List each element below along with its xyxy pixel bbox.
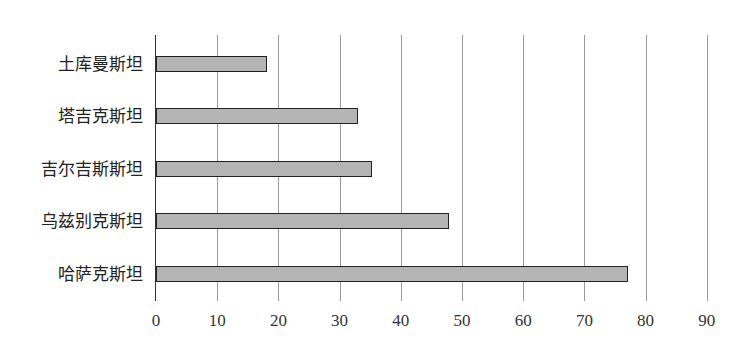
x-tick-label: 20 <box>258 311 298 331</box>
x-tick-label: 70 <box>564 311 604 331</box>
bar <box>156 56 267 72</box>
horizontal-bar-chart: 0102030405060708090 土库曼斯坦塔吉克斯坦吉尔吉斯斯坦乌兹别克… <box>0 0 743 357</box>
gridline <box>462 35 463 301</box>
bar <box>156 213 449 229</box>
category-label: 塔吉克斯坦 <box>0 106 143 126</box>
category-label: 乌兹别克斯坦 <box>0 211 143 231</box>
x-tick-label: 10 <box>197 311 237 331</box>
bar <box>156 161 372 177</box>
x-tick-label: 60 <box>503 311 543 331</box>
bar <box>156 108 358 124</box>
x-tick-label: 90 <box>687 311 727 331</box>
gridline <box>584 35 585 301</box>
x-tick-label: 50 <box>442 311 482 331</box>
category-label: 吉尔吉斯斯坦 <box>0 159 143 179</box>
x-tick-label: 0 <box>136 311 176 331</box>
gridline <box>401 35 402 301</box>
x-tick-label: 80 <box>626 311 666 331</box>
gridline <box>707 35 708 301</box>
bar <box>156 266 628 282</box>
category-label: 哈萨克斯坦 <box>0 264 143 284</box>
gridline <box>523 35 524 301</box>
category-label: 土库曼斯坦 <box>0 54 143 74</box>
x-tick-label: 30 <box>320 311 360 331</box>
x-tick-label: 40 <box>381 311 421 331</box>
gridline <box>646 35 647 301</box>
